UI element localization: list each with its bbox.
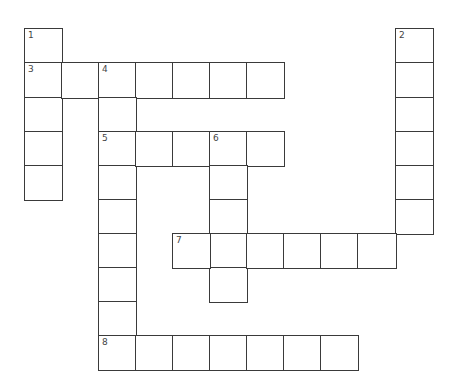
crossword-cell[interactable]: [172, 62, 211, 99]
crossword-cell[interactable]: 7: [172, 233, 211, 269]
crossword-cell[interactable]: 8: [98, 335, 137, 371]
crossword-cell[interactable]: [209, 199, 248, 235]
crossword-cell[interactable]: [395, 165, 434, 201]
clue-number: 3: [28, 64, 34, 74]
crossword-cell[interactable]: [24, 131, 63, 167]
crossword-cell[interactable]: 1: [24, 28, 63, 64]
crossword-cell[interactable]: [98, 301, 137, 337]
crossword-cell[interactable]: [24, 165, 63, 201]
crossword-cell[interactable]: [283, 233, 322, 269]
crossword-cell[interactable]: [172, 335, 211, 371]
crossword-grid: 13245867: [0, 0, 454, 385]
crossword-cell[interactable]: [135, 62, 174, 99]
clue-number: 1: [28, 30, 34, 40]
crossword-cell[interactable]: [395, 131, 434, 167]
clue-number: 2: [399, 30, 405, 40]
clue-number: 8: [102, 337, 108, 347]
crossword-cell[interactable]: [357, 233, 397, 269]
crossword-cell[interactable]: [172, 131, 211, 167]
crossword-cell[interactable]: [135, 131, 174, 167]
crossword-cell[interactable]: [98, 233, 137, 269]
crossword-cell[interactable]: 6: [209, 131, 248, 167]
crossword-cell[interactable]: [320, 335, 359, 371]
crossword-cell[interactable]: [98, 165, 137, 201]
crossword-cell[interactable]: [209, 335, 248, 371]
crossword-cell[interactable]: [320, 233, 359, 269]
crossword-cell[interactable]: [246, 131, 285, 167]
crossword-cell[interactable]: 4: [98, 62, 137, 99]
crossword-cell[interactable]: [246, 62, 285, 99]
clue-number: 6: [213, 133, 219, 143]
crossword-cell[interactable]: [246, 335, 285, 371]
crossword-cell[interactable]: 3: [24, 62, 63, 99]
crossword-cell[interactable]: [395, 97, 434, 133]
crossword-cell[interactable]: [61, 62, 100, 99]
crossword-cell[interactable]: [209, 233, 248, 269]
crossword-cell[interactable]: [98, 97, 137, 133]
clue-number: 4: [102, 64, 108, 74]
crossword-cell[interactable]: [209, 165, 248, 201]
crossword-cell[interactable]: [283, 335, 322, 371]
crossword-cell[interactable]: [135, 335, 174, 371]
crossword-cell[interactable]: [395, 199, 434, 235]
crossword-cell[interactable]: [209, 62, 248, 99]
crossword-cell[interactable]: 5: [98, 131, 137, 167]
crossword-cell[interactable]: [246, 233, 285, 269]
crossword-cell[interactable]: [24, 97, 63, 133]
clue-number: 5: [102, 133, 108, 143]
clue-number: 7: [176, 235, 182, 245]
crossword-cell[interactable]: 2: [395, 28, 434, 64]
crossword-cell[interactable]: [395, 62, 434, 99]
crossword-cell[interactable]: [98, 199, 137, 235]
crossword-cell[interactable]: [98, 267, 137, 303]
crossword-cell[interactable]: [209, 267, 248, 303]
